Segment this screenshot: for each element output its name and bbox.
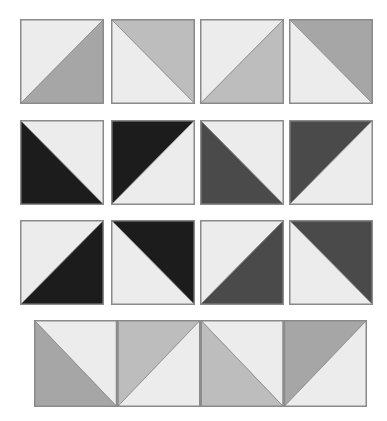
tile-r2-c1 bbox=[20, 120, 104, 205]
tile-r1-c4 bbox=[289, 19, 373, 104]
tile-r3-c1 bbox=[20, 220, 104, 305]
tile-r1-c1 bbox=[20, 19, 104, 104]
tile-r2-c3 bbox=[200, 120, 284, 205]
tile-r3-c3 bbox=[200, 220, 284, 305]
tile-r3-c2 bbox=[111, 220, 195, 305]
tile-r1-c3 bbox=[200, 19, 284, 104]
tile-r2-c4 bbox=[289, 120, 373, 205]
tile-r1-c2 bbox=[111, 19, 195, 104]
tile-r2-c2 bbox=[111, 120, 195, 205]
triangle-strip bbox=[34, 320, 367, 407]
tile-r3-c4 bbox=[289, 220, 373, 305]
